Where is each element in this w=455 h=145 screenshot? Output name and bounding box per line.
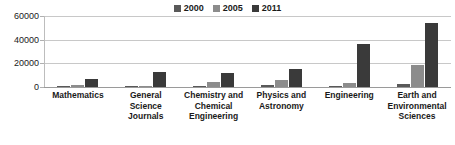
legend-item-2011: 2011 (252, 4, 282, 13)
bar-2011 (153, 72, 166, 87)
plot-area: 6000040000200000 MathematicsGeneral Scie… (0, 16, 455, 145)
bar-2000 (261, 85, 274, 87)
legend-label-2000: 2000 (184, 4, 204, 13)
bar-2000 (57, 86, 70, 87)
y-axis: 6000040000200000 (0, 16, 44, 90)
bar-2000 (193, 86, 206, 87)
bar-2005 (343, 83, 356, 87)
x-axis-category-label: Earth and Environmental Sciences (383, 90, 451, 122)
x-axis-category-label: Mathematics (44, 90, 112, 122)
x-axis-category-label: General Science Journals (112, 90, 180, 122)
y-axis-tick-label: 60000 (14, 12, 39, 21)
bar-2011 (425, 23, 438, 87)
legend-item-2005: 2005 (213, 4, 243, 13)
legend-item-2000: 2000 (174, 4, 204, 13)
y-axis-tick-label: 40000 (14, 35, 39, 44)
bar-group (383, 16, 451, 87)
bar-2011 (221, 73, 234, 87)
bar-group (180, 16, 248, 87)
y-axis-tick-label: 20000 (14, 59, 39, 68)
bar-chart: 2000 2005 2011 6000040000200000 Mathemat… (0, 0, 455, 145)
x-axis-category-label: Physics and Astronomy (247, 90, 315, 122)
bar-group (315, 16, 383, 87)
grid-area (44, 16, 451, 88)
bar-group (112, 16, 180, 87)
x-axis-line (44, 87, 451, 88)
bars-layer (44, 16, 451, 87)
x-axis-category-label: Engineering (315, 90, 383, 122)
bar-2005 (71, 85, 84, 87)
bar-2005 (411, 65, 424, 87)
bar-2000 (397, 84, 410, 87)
bar-group (44, 16, 112, 87)
legend-swatch-2000 (174, 5, 181, 12)
legend-label-2011: 2011 (262, 4, 282, 13)
legend-swatch-2005 (213, 5, 220, 12)
x-axis-category-label: Chemistry and Chemical Engineering (180, 90, 248, 122)
bar-2011 (85, 79, 98, 87)
bar-2005 (207, 82, 220, 87)
bar-group (247, 16, 315, 87)
y-axis-tick-label: 0 (34, 83, 39, 92)
legend-swatch-2011 (252, 5, 259, 12)
bar-2011 (357, 44, 370, 87)
chart-legend: 2000 2005 2011 (0, 2, 455, 15)
bar-2005 (275, 80, 288, 87)
bar-2000 (125, 86, 138, 87)
bar-2011 (289, 69, 302, 87)
bar-2000 (329, 86, 342, 87)
x-axis-labels: MathematicsGeneral Science JournalsChemi… (44, 90, 451, 122)
bar-2005 (139, 86, 152, 87)
legend-label-2005: 2005 (223, 4, 243, 13)
